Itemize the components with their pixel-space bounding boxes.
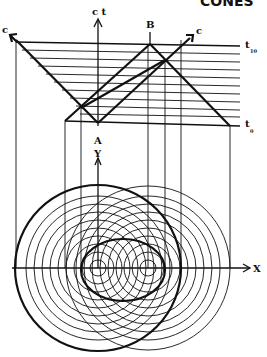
event-a-label: A [93,135,102,146]
y-axis-label: Y [93,148,102,159]
c-right-label: c [196,25,202,36]
event-b-label: B [146,19,154,30]
t10-subscript: 10 [250,48,257,54]
x-axis-label: X [253,263,261,274]
time-slices [16,42,240,126]
ct-axis-label: c t [92,6,107,17]
c-left-label: c [2,24,8,35]
c-arrow-left [10,34,17,42]
light-cone-diagram: CONES [0,0,267,357]
t0-subscript: 0 [250,128,254,134]
title-text: CONES [200,0,254,9]
